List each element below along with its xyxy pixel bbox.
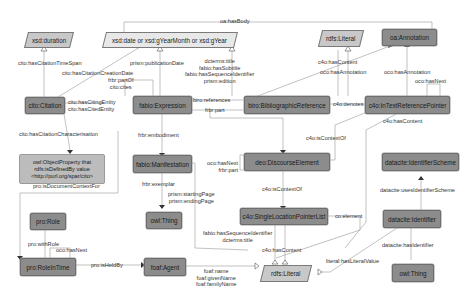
ontology-diagram: xsd:duration xsd:date or xsd:gYearMonth … <box>0 0 468 302</box>
node-fabio-manifestation[interactable]: fabio:Manifestation <box>133 155 192 173</box>
node-pro-role-in-time[interactable]: pro:RoleInTime <box>20 258 76 276</box>
node-xsd-duration[interactable]: xsd:duration <box>24 32 74 48</box>
edge-label-c4o-hascontent-top: c4o:hasContent <box>318 59 357 66</box>
edge-label-c4o-iscontextof-mid: c4o:isContextOf <box>306 135 346 142</box>
edge-label-cito-citing: cito:hasCitingEntitycito:hasCitedEntity <box>68 99 116 112</box>
node-cito-citation[interactable]: cito:Citation <box>25 97 65 114</box>
edge-label-oco-hasannotation-1: oco:hasAnnotation <box>320 69 366 76</box>
edge-label-prism-pages: prism:startingPageprism:endingPage <box>168 191 215 204</box>
node-foaf-agent[interactable]: foaf:Agent <box>144 258 186 276</box>
edge-label-co-element: co:element <box>335 213 362 220</box>
edge-label-prism-pubdate: prism:publicationDate <box>130 60 184 67</box>
edge-label-frbr-exemplar: frbr:exemplar <box>142 181 175 188</box>
node-datacite-identifier-scheme[interactable]: datacite:IdentifierScheme <box>382 153 459 171</box>
edge-label-c4o-iscontextof-low: c4o:isContextOf <box>262 186 302 193</box>
node-c4o-single-location-pointer-list[interactable]: c4o:SingleLocationPointerList <box>240 208 328 225</box>
node-owl-object-property-note[interactable]: owl:ObjectProperty that rdfs:isDefinedBy… <box>19 154 105 184</box>
node-datacite-identifier[interactable]: datacite:Identifier <box>383 210 441 228</box>
edge-label-pro-withrole: pro:withRole <box>28 241 59 248</box>
edge-label-oco-hasnext-mid: oco:hasNextfrbr:part <box>207 160 238 173</box>
node-biro-bibliographic-reference[interactable]: biro:BibliographicReference <box>244 96 330 114</box>
edge-label-literal-value: literal:hasLiteralValue <box>326 258 379 265</box>
node-owl-thing-right[interactable]: owl:Thing <box>392 264 434 282</box>
edge-label-foaf-names: foaf:namefoaf:givenNamefoaf:familyName <box>196 268 236 288</box>
edge-label-cito-characterisation: cito:hasCitationCharacterisation <box>19 131 98 138</box>
node-fabio-expression[interactable]: fabio:Expression <box>133 96 192 114</box>
edge-label-frbr-embodiment: frbr:embodiment <box>138 132 179 139</box>
edge-label-oa-hasbody: oa:hasBody <box>220 18 250 25</box>
node-xsd-date[interactable]: xsd:date or xsd:gYearMonth or xsd:gYear <box>102 32 238 48</box>
edge-label-datacite-uses: datacite:usesIdentifierScheme <box>380 187 455 194</box>
node-rdfs-literal-top[interactable]: rdfs:Literal <box>318 30 364 47</box>
edge-label-cito-creationdate: cito:hasCitationCreationDate <box>62 70 133 77</box>
edge-label-biro-references: biro:references <box>193 97 230 104</box>
node-rdfs-literal-bottom[interactable]: rdfs:Literal <box>260 265 312 282</box>
edge-label-oco-hasannotation-2: oco:hasAnnotation <box>384 69 430 76</box>
edge-label-fabio-seq: fabio:hasSequenceIdentifierdcterms:title <box>203 230 272 243</box>
edge-label-frbr-partof: frbr:partOfcito:cites <box>108 77 134 90</box>
edge-label-oco-hasnext-low: oco:hasNext <box>56 247 87 254</box>
edge-label-frbr-part-top: frbr:part <box>205 107 225 114</box>
node-oa-annotation[interactable]: oa:Annotation <box>382 29 437 46</box>
edge-label-cito-timespan: cito:hasCitationTimeSpan <box>18 60 82 67</box>
node-owl-thing-left[interactable]: owl:Thing <box>146 212 182 229</box>
edge-label-datacite-hasidentifier: datacite:hasIdentifier <box>382 242 434 249</box>
edge-label-pro-doccontext: pro:isDocumentContextFor <box>33 183 100 190</box>
edge-label-pro-isheldby: pro:isHeldBy <box>91 262 123 269</box>
edge-label-oco-hasnext-top: oco:hasNext <box>415 78 446 85</box>
edge-label-c4o-denotes: c4o:denotes <box>333 101 363 108</box>
edge-label-c4o-hascontent-low: c4o:hasContent <box>262 247 301 254</box>
node-pro-role[interactable]: pro:Role <box>30 213 66 230</box>
edge-label-dcterms-group: dcterms:titlefabio:hasSubtitlefabio:hasS… <box>185 58 254 84</box>
node-deo-discourse-element[interactable]: deo:DiscourseElement <box>244 153 330 171</box>
node-c4o-intext-reference-pointer[interactable]: c4o:InTextReferencePointer <box>365 96 450 114</box>
edge-label-c4o-hascontent-mid: c4o:hasContent <box>383 118 422 125</box>
